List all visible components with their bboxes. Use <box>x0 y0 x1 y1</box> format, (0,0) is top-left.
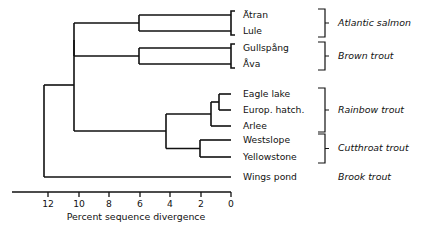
tip-label-eagle-lake: Eagle lake <box>243 88 291 99</box>
tip-labels: Ätran Lule Gullspång Åva Eagle lake Euro… <box>242 9 304 182</box>
axis-tick-label-4: 4 <box>167 198 173 209</box>
tip-caps <box>231 11 235 68</box>
group-label-cutthroat-trout: Cutthroat trout <box>338 142 409 153</box>
axis-tick-label-8: 8 <box>106 198 112 209</box>
tip-label-wings-pond: Wings pond <box>243 171 297 182</box>
tip-cap-brown-trout <box>231 44 235 68</box>
axis-tick-label-12: 12 <box>42 198 54 209</box>
x-axis: 12 10 8 6 4 2 0 Percent sequence diverge… <box>12 192 234 222</box>
group-label-atlantic-salmon: Atlantic salmon <box>337 17 411 28</box>
group-bracket-atlantic-salmon <box>318 9 329 37</box>
group-brackets <box>318 9 329 163</box>
axis-title: Percent sequence divergence <box>67 211 206 222</box>
group-label-brown-trout: Brown trout <box>338 50 394 61</box>
axis-tick-label-2: 2 <box>198 198 204 209</box>
group-labels: Atlantic salmon Brown trout Rainbow trou… <box>337 17 411 182</box>
group-label-brook-trout: Brook trout <box>338 171 391 182</box>
dendrogram-canvas: Ätran Lule Gullspång Åva Eagle lake Euro… <box>0 0 428 225</box>
tip-label-lule: Lule <box>243 25 262 36</box>
group-bracket-cutthroat-trout <box>318 134 329 163</box>
axis-tick-label-10: 10 <box>73 198 85 209</box>
group-bracket-rainbow-trout <box>318 88 329 132</box>
axis-tick-label-6: 6 <box>137 198 143 209</box>
tip-label-yellowstone: Yellowstone <box>242 151 297 162</box>
tip-cap-atlantic-salmon <box>231 11 235 35</box>
tip-label-atran: Ätran <box>243 9 268 20</box>
tip-label-ava: Åva <box>243 58 260 69</box>
tip-label-gullspang: Gullspång <box>243 42 289 53</box>
group-label-rainbow-trout: Rainbow trout <box>338 104 404 115</box>
dendrogram-figure: Ätran Lule Gullspång Åva Eagle lake Euro… <box>0 0 428 225</box>
tip-label-arlee: Arlee <box>243 120 267 131</box>
tip-label-westslope: Westslope <box>243 134 290 145</box>
tip-label-europ-hatch: Europ. hatch. <box>243 104 304 115</box>
tree-branches <box>44 15 231 177</box>
axis-tick-label-0: 0 <box>228 198 234 209</box>
group-bracket-brown-trout <box>318 42 329 70</box>
